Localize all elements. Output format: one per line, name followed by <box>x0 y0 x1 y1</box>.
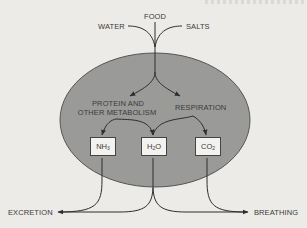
nh3-to-excretion-arrow <box>58 180 102 212</box>
label-water: WATER <box>98 22 125 31</box>
label-metabolism-line1: PROTEIN AND <box>78 99 158 108</box>
label-food: FOOD <box>144 12 166 21</box>
co2-subscript: 2 <box>212 145 215 151</box>
cell-exchange-diagram: WATER FOOD SALTS PROTEIN AND OTHER METAB… <box>0 0 307 228</box>
salts-input-line <box>155 26 182 47</box>
water-input-line <box>128 26 155 47</box>
product-box-h2o: H2O <box>141 137 167 156</box>
h2o-tail: O <box>155 142 161 151</box>
label-respiration: RESPIRATION <box>175 103 226 112</box>
product-box-nh3: NH3 <box>90 137 116 156</box>
co2-to-breathing-arrow <box>207 180 246 212</box>
product-box-co2: CO2 <box>195 137 221 156</box>
nh3-subscript: 3 <box>107 145 110 151</box>
h2o-to-breathing-arrow <box>153 188 248 212</box>
label-metabolism-line2: OTHER METABOLISM <box>74 108 160 117</box>
label-breathing: BREATHING <box>254 208 298 217</box>
label-excretion: EXCRETION <box>8 208 53 217</box>
co2-base: CO <box>201 142 212 151</box>
h2o-to-excretion-arrow <box>62 188 153 212</box>
label-salts: SALTS <box>186 22 210 31</box>
nh3-base: NH <box>96 142 107 151</box>
